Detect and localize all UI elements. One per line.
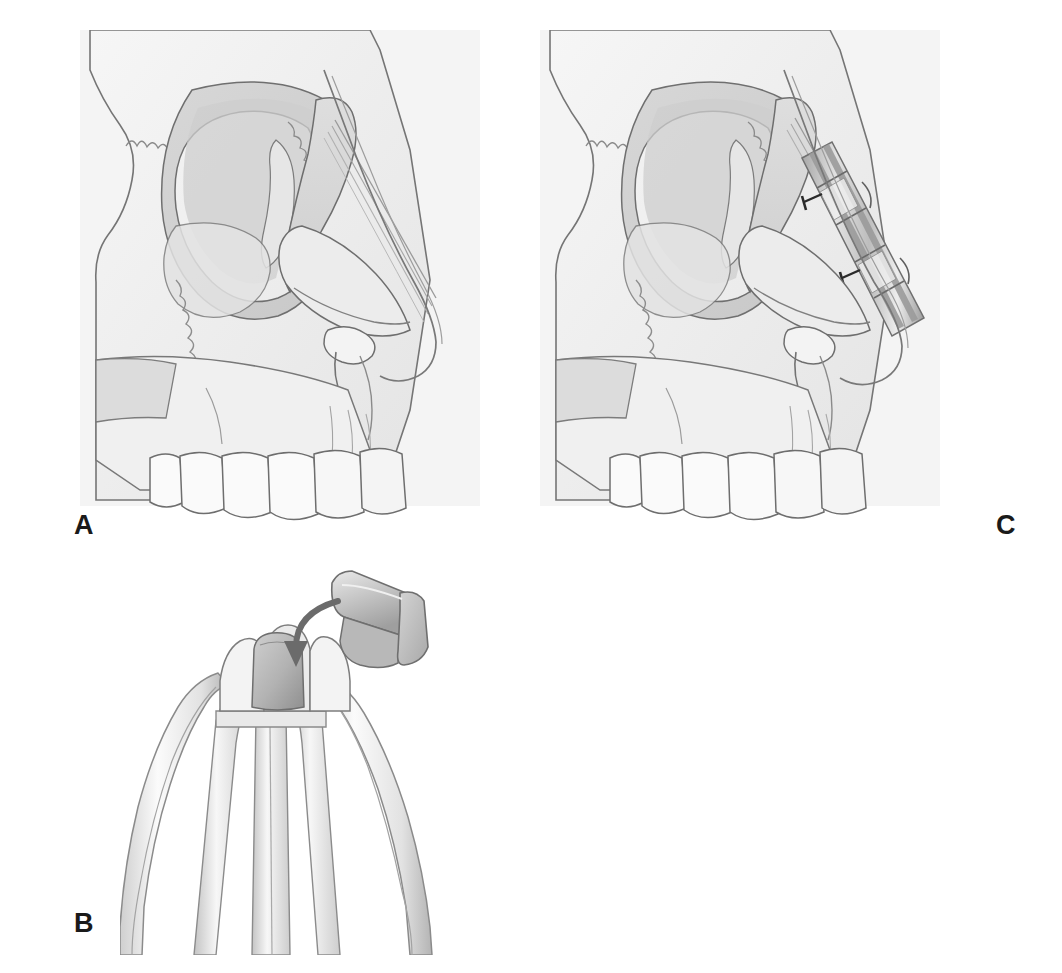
tooth [222,452,272,517]
panel-b-forceps-and-graft [120,555,460,955]
tooth [268,452,318,519]
tooth [150,454,184,507]
maxillary-teeth [610,448,866,519]
tooth [314,450,364,518]
maxillary-teeth [150,448,406,519]
tooth [360,448,406,514]
figure-canvas: A B C [0,0,1062,973]
tooth [640,452,686,513]
panel-label-a: A [74,512,94,539]
tooth [610,454,644,507]
maxilla-lateral-shade [556,359,636,422]
panel-c-skull-with-graft [540,30,1000,530]
tooth [820,448,866,514]
maxilla-lateral-shade [96,359,176,422]
forceps-crossbar [216,711,326,727]
graft-block [332,571,428,668]
tooth [682,452,732,517]
tooth [180,452,226,513]
tooth [728,452,778,519]
panel-a-skull-pregraft [80,30,540,530]
panel-label-b: B [74,910,94,937]
graft-block-end-face [398,592,428,665]
tooth [774,450,824,518]
panel-label-c: C [996,512,1016,539]
